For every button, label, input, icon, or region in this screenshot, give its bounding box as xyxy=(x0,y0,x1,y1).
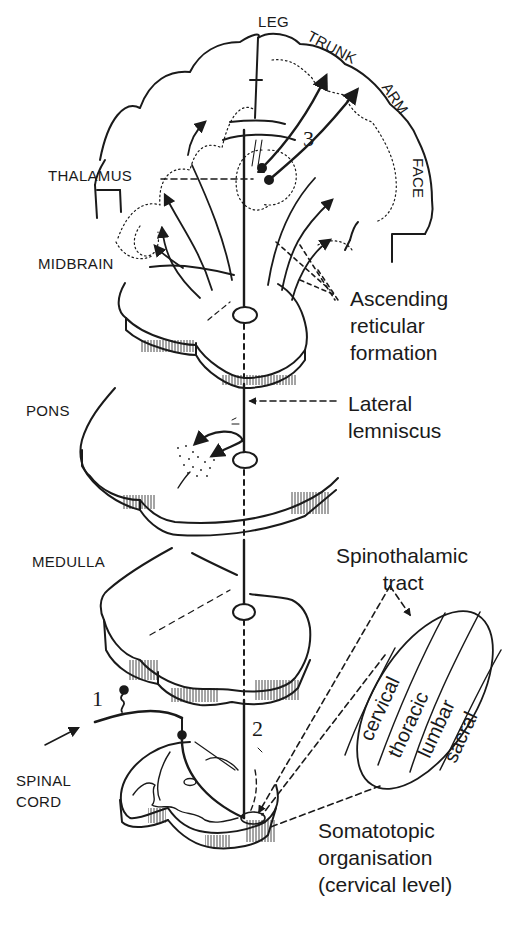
label-leg: LEG xyxy=(258,14,289,29)
label-midbrain: MIDBRAIN xyxy=(38,256,114,271)
line-drawing xyxy=(0,0,520,926)
label-spinal-cord: SPINAL CORD xyxy=(16,770,71,812)
neuron-number-2: 2 xyxy=(252,718,263,740)
label-thalamus: THALAMUS xyxy=(48,168,132,183)
spinal-cord-section xyxy=(120,742,278,848)
midbrain-section xyxy=(119,283,307,388)
label-pons: PONS xyxy=(26,403,70,418)
neuron-number-3: 3 xyxy=(303,128,314,150)
callout-lateral-lemniscus: Lateral lemniscus xyxy=(348,390,441,444)
cerebrum-outline xyxy=(95,34,433,262)
neuron-number-1: 1 xyxy=(92,688,103,710)
label-medulla: MEDULLA xyxy=(32,554,105,569)
callout-spinothalamic-tract: Spinothalamic tract xyxy=(336,542,468,596)
medulla-section xyxy=(101,548,311,705)
label-face: FACE xyxy=(411,158,426,198)
pons-section xyxy=(80,388,338,536)
callout-ascending-reticular-formation: Ascending reticular formation xyxy=(350,285,448,366)
callout-somatotopic-organisation: Somatotopic organisation (cervical level… xyxy=(318,817,452,898)
spinothalamic-pathway-diagram: LEG TRUNK ARM FACE THALAMUS MIDBRAIN PON… xyxy=(0,0,520,926)
